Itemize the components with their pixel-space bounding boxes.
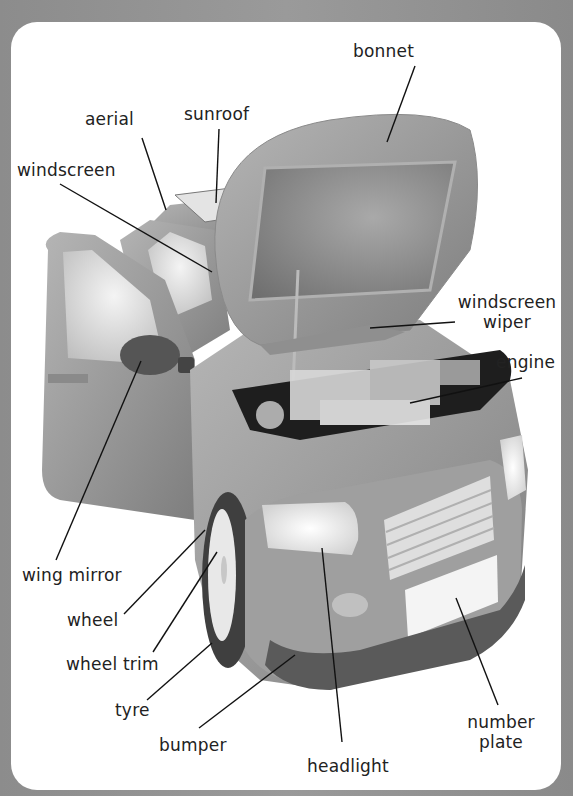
label-wheel: wheel bbox=[67, 610, 118, 630]
label-number-plate-line2: plate bbox=[461, 732, 541, 752]
headlight-shape bbox=[262, 502, 358, 555]
label-number-plate-line1: number bbox=[461, 712, 541, 732]
car-illustration bbox=[11, 22, 561, 790]
label-sunroof: sunroof bbox=[184, 104, 249, 124]
label-tyre: tyre bbox=[115, 700, 150, 720]
label-windscreen-wiper-line1: windscreen bbox=[457, 292, 557, 312]
label-wing-mirror: wing mirror bbox=[22, 565, 122, 585]
label-headlight: headlight bbox=[307, 756, 389, 776]
label-windscreen-wiper: windscreen wiper bbox=[457, 292, 557, 332]
label-number-plate: number plate bbox=[461, 712, 541, 752]
label-bonnet: bonnet bbox=[353, 41, 414, 61]
label-bumper: bumper bbox=[159, 735, 227, 755]
label-windscreen: windscreen bbox=[17, 160, 116, 180]
title-fragment-glyph bbox=[547, 0, 567, 8]
label-engine: engine bbox=[496, 352, 555, 372]
diagram-panel: bonnet aerial sunroof windscreen windscr… bbox=[11, 22, 561, 790]
label-wheel-trim: wheel trim bbox=[66, 654, 159, 674]
wing-mirror-shape bbox=[120, 335, 180, 375]
label-aerial: aerial bbox=[85, 109, 134, 129]
label-windscreen-wiper-line2: wiper bbox=[457, 312, 557, 332]
